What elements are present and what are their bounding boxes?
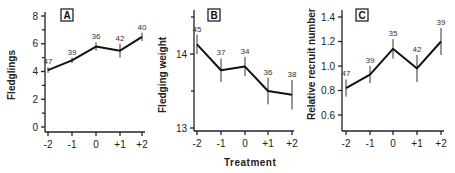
panel-1-plot: 02468-2-10+1+24739364240	[32, 11, 148, 151]
panel-label-text: B	[211, 10, 218, 21]
y-axis-label: Fledging weight	[157, 36, 168, 113]
x-tick-label: +2	[286, 138, 298, 149]
x-tick-label: +1	[262, 138, 274, 149]
y-tick-label: 1.0	[321, 61, 335, 72]
y-tick-label: 0.8	[321, 85, 335, 96]
sample-size-label: 34	[241, 47, 250, 56]
y-tick-label: 8	[32, 11, 38, 22]
x-tick-label: 0	[93, 139, 99, 150]
x-tick-label: -1	[68, 139, 77, 150]
x-tick-label: -1	[366, 138, 375, 149]
x-axis-label: Treatment	[224, 157, 276, 168]
x-tick-label: 0	[390, 138, 396, 149]
y-tick-label: 0	[32, 122, 38, 133]
series-line	[48, 37, 142, 70]
x-tick-label: 0	[242, 138, 248, 149]
x-tick-label: +2	[136, 139, 148, 150]
panel-label: B	[208, 9, 220, 21]
y-tick-label: 1.4	[321, 12, 335, 23]
sample-size-label: 39	[437, 18, 446, 27]
sample-size-label: 47	[342, 69, 351, 78]
sample-size-label: 35	[389, 29, 398, 38]
sample-size-label: 42	[413, 45, 422, 54]
sample-size-label: 38	[288, 70, 297, 79]
y-tick-label: 4	[32, 66, 38, 77]
sample-size-label: 37	[217, 48, 226, 57]
figure: Fledglings A Fledging weight B Treatment…	[0, 0, 455, 173]
y-tick-label: 0.6	[321, 110, 335, 121]
panel-label-text: A	[64, 10, 71, 21]
sample-size-label: 42	[116, 34, 125, 43]
y-tick-label: 2	[32, 94, 38, 105]
x-tick-label: +2	[435, 138, 447, 149]
y-tick-label: 14	[176, 49, 188, 60]
panel-a: Fledglings A	[6, 9, 145, 132]
y-axis-label: Fledglings	[6, 50, 17, 100]
panel-label-text: C	[359, 10, 366, 21]
sample-size-label: 36	[92, 32, 101, 41]
x-tick-label: -1	[217, 138, 226, 149]
panel-3-plot: 0.60.81.01.21.4-2-10+1+24739354239	[321, 12, 447, 150]
sample-size-label: 39	[366, 56, 375, 65]
sample-size-label: 36	[264, 68, 273, 77]
x-tick-label: +1	[114, 139, 126, 150]
panel-label: C	[356, 9, 368, 21]
sample-size-label: 39	[68, 48, 77, 57]
x-tick-label: -2	[193, 138, 202, 149]
x-tick-label: +1	[411, 138, 423, 149]
sample-size-label: 47	[44, 57, 53, 66]
x-tick-label: -2	[342, 138, 351, 149]
sample-size-label: 40	[138, 23, 147, 32]
series-line	[346, 42, 441, 89]
y-axis-label: Relative recruit number	[306, 8, 317, 120]
y-tick-label: 13	[176, 123, 188, 134]
x-tick-label: -2	[44, 139, 53, 150]
y-tick-label: 1.2	[321, 36, 335, 47]
y-tick-label: 6	[32, 38, 38, 49]
sample-size-label: 45	[193, 25, 202, 34]
panel-label: A	[61, 9, 73, 21]
